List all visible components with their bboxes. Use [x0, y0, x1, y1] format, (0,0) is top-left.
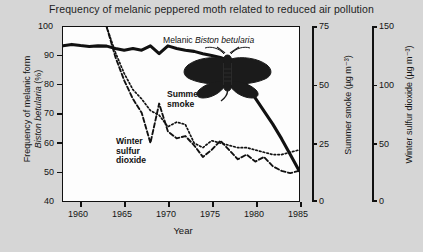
winter-sulfur-dioxide-label: Winter sulfur dioxide	[116, 137, 146, 166]
winter-so2-tick-label: 50	[379, 139, 389, 149]
summer-smoke-tick-label: 50	[319, 80, 329, 90]
left-axis-title-units	[33, 84, 43, 87]
moth-caption-plain: Melanic	[163, 35, 195, 45]
left-tick-label: 90	[44, 50, 54, 60]
moth-caption-species: Biston betularia	[195, 35, 254, 45]
summer-smoke-tick	[312, 200, 317, 202]
x-tick-label: 1985	[288, 209, 308, 219]
left-axis-title-pct: (%)	[33, 70, 43, 84]
x-tick-mark	[300, 202, 302, 207]
winter-so2-spine	[372, 26, 374, 202]
left-tick-label: 50	[44, 167, 54, 177]
left-tick-label: 60	[44, 138, 54, 148]
summer-smoke-tick-label: 25	[319, 139, 329, 149]
summer-smoke-tick	[312, 26, 317, 28]
moth-icon	[181, 45, 273, 105]
left-axis-title-species: Biston betularia	[33, 86, 43, 148]
x-tick-label: 1980	[244, 209, 264, 219]
winter-so2-tick-label: 0	[379, 196, 384, 206]
figure: Frequency of melanic peppered moth relat…	[0, 0, 423, 252]
summer-smoke-tick	[312, 85, 317, 87]
left-tick-label: 70	[44, 108, 54, 118]
x-tick-label: 1960	[68, 209, 88, 219]
left-axis-title-line2: Biston betularia (%)	[33, 24, 44, 194]
summer-smoke-axis-title: Summer smoke (µg m⁻³)	[343, 25, 354, 185]
left-axis-title-line1: Frequency of melanic form	[22, 24, 33, 194]
summer-smoke-tick	[312, 143, 317, 145]
winter-so2-axis-title: Winter sulfur dioxide (µg m⁻³)	[404, 17, 415, 192]
left-axis-title-text: Frequency of melanic form	[22, 56, 32, 163]
x-tick-label: 1965	[112, 209, 132, 219]
winter-so2-tick	[372, 143, 377, 145]
x-tick-label: 1975	[200, 209, 220, 219]
x-tick-mark	[80, 202, 82, 207]
moth-caption: Melanic Biston betularia	[163, 35, 254, 45]
winter-so2-tick	[372, 85, 377, 87]
x-tick-mark	[124, 202, 126, 207]
winter-so2-tick-label: 150	[379, 21, 394, 31]
x-tick-label: 1970	[156, 209, 176, 219]
x-axis-title: Year	[0, 225, 366, 236]
x-tick-mark	[168, 202, 170, 207]
winter-so2-tick-label: 100	[379, 80, 394, 90]
plot-area: Summer smoke Winter sulfur dioxide Melan…	[62, 26, 300, 202]
summer-smoke-tick-label: 0	[319, 196, 324, 206]
left-tick-label: 40	[44, 196, 54, 206]
winter-so2-tick	[372, 200, 377, 202]
summer-smoke-spine	[312, 26, 314, 202]
x-tick-mark	[212, 202, 214, 207]
x-tick-mark	[256, 202, 258, 207]
melanic-moth-illustration	[181, 45, 273, 105]
left-tick-label: 80	[44, 79, 54, 89]
summer-smoke-tick-label: 75	[319, 21, 329, 31]
chart-title: Frequency of melanic peppered moth relat…	[0, 3, 423, 15]
winter-so2-tick	[372, 26, 377, 28]
